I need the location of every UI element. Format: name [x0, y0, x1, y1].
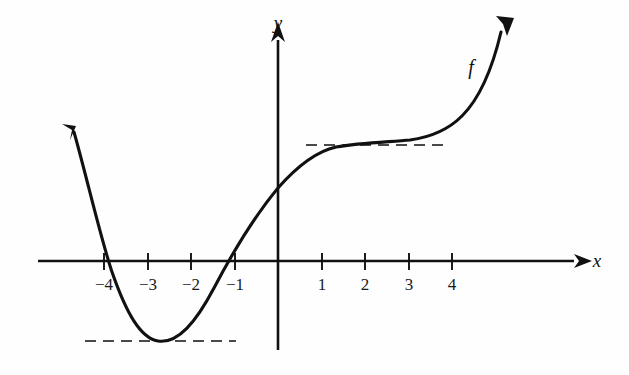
x-axis-tick-labels: −4 −3 −2 −1 1 2 3 4	[95, 275, 457, 294]
tick-label-2: 2	[361, 275, 370, 294]
tick-label-neg1: −1	[226, 275, 244, 294]
tick-label-1: 1	[318, 275, 327, 294]
y-axis-label: y	[272, 12, 283, 33]
function-curve-group: f	[62, 16, 514, 341]
x-axis-label: x	[592, 250, 602, 271]
function-curve	[74, 32, 501, 341]
function-graph-svg: x y −4 −3 −2 −1 1 2 3 4	[0, 0, 629, 375]
tick-label-neg4: −4	[95, 275, 114, 294]
tick-label-neg3: −3	[139, 275, 157, 294]
dashed-guides	[85, 145, 449, 341]
tick-label-neg2: −2	[182, 275, 200, 294]
graph-figure: x y −4 −3 −2 −1 1 2 3 4	[0, 0, 629, 375]
curve-right-arrow-icon	[496, 16, 514, 36]
curve-label-f: f	[468, 56, 476, 79]
tick-label-4: 4	[448, 275, 457, 294]
x-axis-group: x	[38, 250, 602, 271]
x-axis-arrow-icon	[574, 254, 592, 268]
tick-label-3: 3	[405, 275, 414, 294]
